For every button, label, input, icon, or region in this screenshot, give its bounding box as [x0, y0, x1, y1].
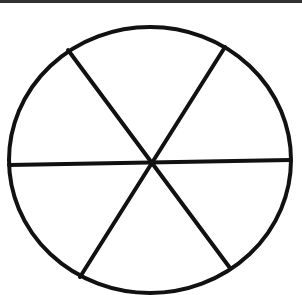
diagonal-divider-line-a [68, 50, 230, 268]
pie-diagram [0, 0, 302, 295]
